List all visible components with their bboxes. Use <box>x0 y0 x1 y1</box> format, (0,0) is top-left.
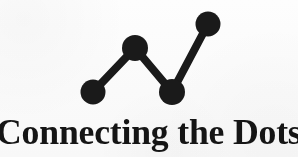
dot-markers <box>81 12 221 106</box>
dot-1 <box>81 80 106 105</box>
wordmark-text: Connecting the Dots <box>0 115 298 150</box>
connected-dots-icon <box>0 0 298 112</box>
logo-canvas: Connecting the Dots <box>0 0 298 157</box>
dot-2 <box>122 35 148 61</box>
dot-3 <box>159 79 185 105</box>
wordmark: Connecting the Dots <box>0 110 298 155</box>
dot-4 <box>196 12 221 37</box>
dot-connector-lines <box>93 24 208 92</box>
